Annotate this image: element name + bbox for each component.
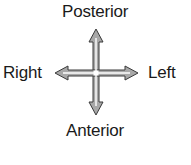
label-left: Left bbox=[148, 63, 176, 83]
label-right: Right bbox=[3, 63, 42, 83]
label-anterior: Anterior bbox=[66, 121, 124, 141]
label-posterior: Posterior bbox=[62, 2, 128, 22]
